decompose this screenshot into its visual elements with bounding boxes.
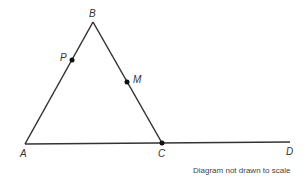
point-p <box>70 58 75 63</box>
label-p: P <box>60 52 67 63</box>
segment-ab <box>25 22 93 144</box>
segment-ad <box>25 142 290 144</box>
label-c: C <box>158 148 165 159</box>
geometry-diagram <box>0 0 308 186</box>
label-m: M <box>133 74 141 85</box>
scale-note: Diagram not drawn to scale <box>193 166 290 175</box>
label-a: A <box>20 148 27 159</box>
point-c <box>160 141 165 146</box>
point-m <box>125 80 130 85</box>
label-b: B <box>89 8 96 19</box>
label-d: D <box>286 146 293 157</box>
